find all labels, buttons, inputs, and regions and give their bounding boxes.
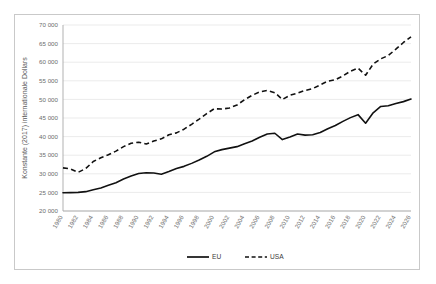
xtick-label: 2012 [293, 214, 306, 230]
xtick-label: 2026 [399, 214, 412, 230]
xtick-label: 1986 [96, 214, 109, 230]
ytick-label: 50 000 [39, 96, 58, 103]
ytick-label: 35 000 [39, 151, 58, 158]
xtick-label: 1994 [157, 214, 170, 230]
xtick-label: 2022 [369, 214, 382, 230]
xtick-label: 2020 [354, 214, 367, 230]
series-layer [63, 37, 411, 193]
xtick-label: 2016 [323, 214, 336, 230]
legend-layer: EUUSA [187, 253, 284, 260]
xtick-label-layer: 1980198219841986198819901992199419961998… [51, 214, 412, 230]
xtick-label: 1992 [142, 214, 155, 230]
ytick-label: 30 000 [39, 170, 58, 177]
xtick-label: 1998 [187, 214, 200, 230]
ytick-label: 20 000 [39, 207, 58, 214]
ytick-label: 60 000 [39, 58, 58, 65]
chart-container: 20 00025 00030 00035 00040 00045 00050 0… [14, 14, 420, 270]
xtick-label: 2006 [248, 214, 261, 230]
ytick-label: 25 000 [39, 189, 58, 196]
xtick-label: 2008 [263, 214, 276, 230]
legend-label-eu: EU [212, 253, 221, 260]
xtick-label: 2024 [384, 214, 397, 230]
series-line-usa [63, 37, 411, 172]
legend-label-usa: USA [270, 253, 284, 260]
xtick-label: 2004 [232, 214, 245, 230]
xtick-label: 1996 [172, 214, 185, 230]
ytick-label-layer: 20 00025 00030 00035 00040 00045 00050 0… [39, 21, 58, 214]
series-line-eu [63, 99, 411, 193]
ytick-label: 40 000 [39, 133, 58, 140]
ytick-label: 55 000 [39, 77, 58, 84]
xtick-label: 2010 [278, 214, 291, 230]
xtick-label: 1990 [127, 214, 140, 230]
xtick-label: 2002 [217, 214, 230, 230]
ytick-label: 70 000 [39, 21, 58, 28]
line-chart: 20 00025 00030 00035 00040 00045 00050 0… [15, 15, 419, 269]
y-axis-title-layer: Konstante (2017) internationale Dollars [21, 57, 29, 179]
xtick-label: 1982 [66, 214, 79, 230]
xtick-label: 2018 [338, 214, 351, 230]
y-axis-title: Konstante (2017) internationale Dollars [21, 57, 29, 179]
ytick-label: 65 000 [39, 40, 58, 47]
xtick-label: 2000 [202, 214, 215, 230]
ytick-label: 45 000 [39, 114, 58, 121]
xtick-label: 1980 [51, 214, 64, 230]
xtick-label: 1984 [81, 214, 94, 230]
xtick-label: 2014 [308, 214, 321, 230]
xtick-label: 1988 [111, 214, 124, 230]
